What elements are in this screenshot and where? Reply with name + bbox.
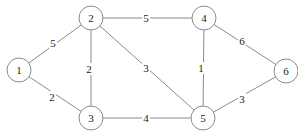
edge-weight-3-5: 4 <box>143 112 149 124</box>
node-label: 4 <box>201 12 207 24</box>
node-5: 5 <box>191 106 215 130</box>
edge-weight-2-5: 3 <box>143 62 149 74</box>
node-label: 6 <box>283 65 289 77</box>
edge-weight-4-5: 1 <box>198 62 204 74</box>
edge-weight-2-3: 2 <box>86 63 92 75</box>
node-label: 5 <box>200 112 206 124</box>
node-6: 6 <box>274 59 298 83</box>
node-2: 2 <box>79 6 103 30</box>
edge-weight-1-3: 2 <box>49 91 55 103</box>
node-4: 4 <box>192 6 216 30</box>
graph-canvas: 522534163 123456 <box>0 0 298 140</box>
edge-weight-5-6: 3 <box>239 93 245 105</box>
node-label: 2 <box>88 12 94 24</box>
weighted-graph-diagram: 522534163 123456 <box>0 0 298 140</box>
node-label: 3 <box>88 112 94 124</box>
edge-labels-layer: 522534163 <box>48 12 246 124</box>
edge-weight-4-6: 6 <box>239 35 245 47</box>
nodes-layer: 123456 <box>7 6 298 130</box>
edge-weight-2-4: 5 <box>143 12 149 24</box>
node-label: 1 <box>16 64 22 76</box>
node-3: 3 <box>79 106 103 130</box>
edge-weight-1-2: 5 <box>50 37 56 49</box>
node-1: 1 <box>7 58 31 82</box>
